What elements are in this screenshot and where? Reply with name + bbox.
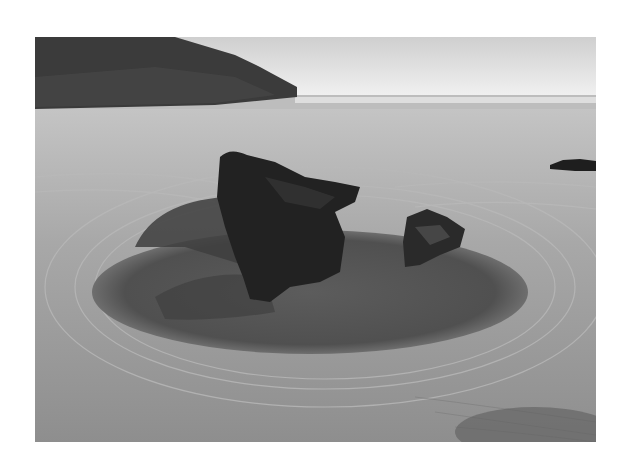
beach-photo bbox=[35, 37, 596, 442]
photo-illustration bbox=[35, 37, 596, 442]
